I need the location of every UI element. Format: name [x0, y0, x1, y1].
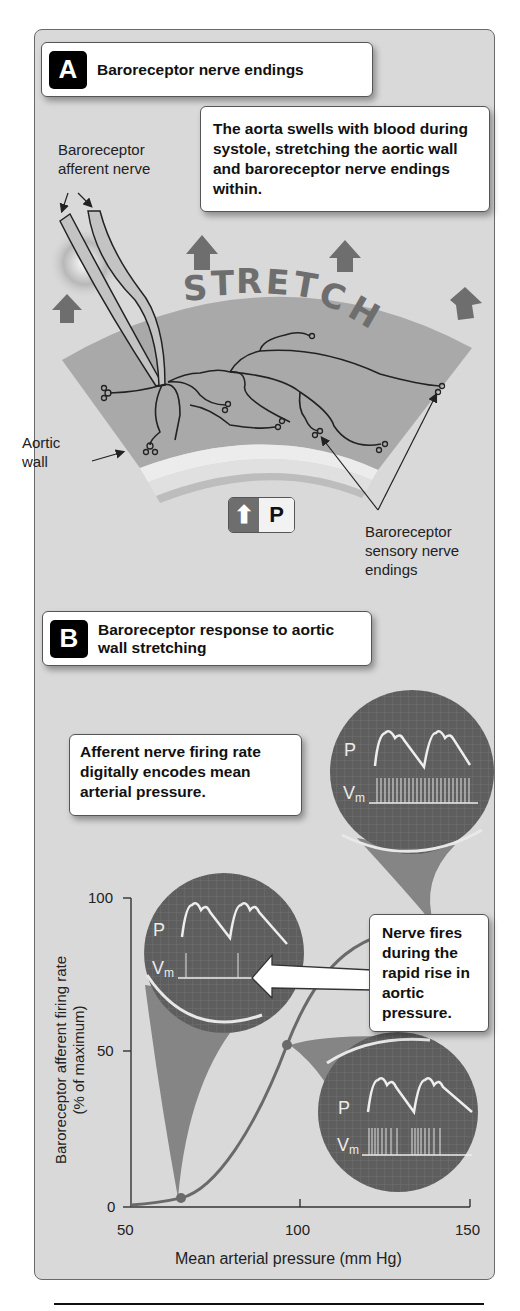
- inset-circle-low: [144, 873, 304, 1033]
- stretch-label: R: [236, 261, 262, 301]
- panel-b-letter: B: [50, 620, 88, 658]
- sensory-endings-label: Baroreceptor sensory nerve endings: [365, 522, 459, 579]
- inset-circle-high: [330, 690, 494, 854]
- x-axis-label: Mean arterial pressure (mm Hg): [175, 1250, 402, 1268]
- inset-mid-p-label: P: [338, 1098, 350, 1119]
- y-axis-label: Baroreceptor afferent firing rate (% of …: [52, 895, 88, 1225]
- pressure-increase-badge: ⬆ P: [228, 497, 295, 533]
- up-arrow-icon: ⬆: [229, 498, 259, 532]
- y-tick-50: 50: [97, 1042, 114, 1059]
- panel-b-title-text: Baroreceptor response to aortic wall str…: [98, 621, 334, 657]
- x-tick-50: 50: [117, 1221, 134, 1238]
- inset-mid-vm-label: Vm: [337, 1135, 359, 1157]
- encoding-callout: Afferent nerve firing rate digitally enc…: [69, 734, 302, 816]
- inset-low-vm-label: Vm: [152, 958, 174, 980]
- aortic-wall-label: Aortic wall: [22, 433, 60, 471]
- y-tick-0: 0: [107, 1198, 115, 1215]
- stretch-label: E: [265, 261, 291, 303]
- inset-high-p-label: P: [344, 740, 356, 761]
- y-tick-100: 100: [88, 889, 113, 906]
- panel-a-title: A Baroreceptor nerve endings: [41, 42, 373, 97]
- pressure-symbol: P: [259, 498, 294, 532]
- stretch-label: T: [210, 263, 235, 304]
- inset-high-vm-label: Vm: [343, 783, 365, 805]
- panel-a-letter: A: [49, 51, 87, 89]
- bottom-divider: [54, 1303, 484, 1305]
- panel-b-title: B Baroreceptor response to aortic wall s…: [42, 611, 372, 666]
- x-tick-100: 100: [285, 1221, 310, 1238]
- nerve-fires-callout: Nerve fires during the rapid rise in aor…: [369, 914, 489, 1032]
- inset-low-p-label: P: [153, 920, 165, 941]
- systole-callout: The aorta swells with blood during systo…: [200, 106, 490, 212]
- x-tick-150: 150: [455, 1221, 480, 1238]
- stretch-label: S: [182, 267, 209, 309]
- panel-a-title-text: Baroreceptor nerve endings: [97, 61, 304, 79]
- afferent-nerve-label: Baroreceptor afferent nerve: [58, 140, 150, 178]
